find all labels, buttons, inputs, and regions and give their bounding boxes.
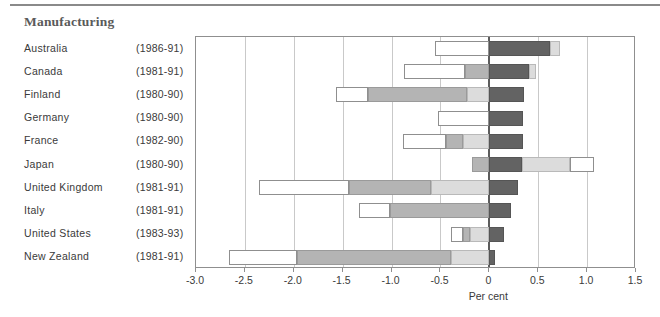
- category-name: Canada: [24, 65, 63, 77]
- category-name: Australia: [24, 42, 68, 54]
- bar-row[interactable]: [196, 153, 634, 176]
- bar-row[interactable]: [196, 176, 634, 199]
- category-period: (1981-91): [136, 181, 183, 193]
- category-period: (1983-93): [136, 227, 183, 239]
- x-axis: -3.0-2.5-2.0-1.5-1.0-0.500.51.01.5Per ce…: [195, 268, 635, 298]
- category-label-row: Australia(1986-91): [0, 36, 195, 59]
- x-axis-tick: [342, 268, 343, 272]
- category-name: Japan: [24, 158, 54, 170]
- x-axis-tick-label: -0.5: [430, 274, 448, 286]
- bar-segment[interactable]: [529, 64, 536, 79]
- bar-segment[interactable]: [349, 180, 431, 195]
- category-period: (1981-91): [136, 204, 183, 216]
- bar-segment[interactable]: [435, 41, 490, 56]
- bar-segment[interactable]: [522, 157, 571, 172]
- bar-row[interactable]: [196, 60, 634, 83]
- bar-segment[interactable]: [489, 180, 517, 195]
- chart-plot-area: [195, 36, 635, 268]
- category-label-column: Australia(1986-91)Canada(1981-91)Finland…: [0, 36, 195, 268]
- bar-segment[interactable]: [463, 134, 489, 149]
- bar-segment[interactable]: [431, 180, 490, 195]
- category-label-row: Japan(1980-90): [0, 152, 195, 175]
- bar-row[interactable]: [196, 37, 634, 60]
- category-name: United Kingdom: [24, 181, 103, 193]
- bar-segment[interactable]: [489, 64, 529, 79]
- x-axis-tick: [195, 268, 196, 272]
- category-name: New Zealand: [24, 250, 89, 262]
- header-rule: [10, 4, 660, 6]
- x-axis-tick: [537, 268, 538, 272]
- x-axis-title: Per cent: [469, 290, 508, 302]
- bar-segment[interactable]: [550, 41, 560, 56]
- x-axis-tick-label: -3.0: [186, 274, 204, 286]
- bar-segment[interactable]: [451, 250, 489, 265]
- bar-segment[interactable]: [472, 157, 490, 172]
- bar-segment[interactable]: [570, 157, 593, 172]
- bar-segment[interactable]: [451, 227, 463, 242]
- category-name: France: [24, 134, 58, 146]
- bar-row[interactable]: [196, 246, 634, 269]
- x-axis-tick-label: -2.5: [235, 274, 253, 286]
- category-name: Germany: [24, 111, 69, 123]
- x-axis-tick: [488, 268, 489, 272]
- bar-segment[interactable]: [359, 203, 389, 218]
- bar-segment[interactable]: [297, 250, 451, 265]
- category-label-row: New Zealand(1981-91): [0, 245, 195, 268]
- x-axis-tick-label: 1.0: [579, 274, 594, 286]
- category-period: (1986-91): [136, 42, 183, 54]
- bar-row[interactable]: [196, 223, 634, 246]
- category-label-row: Italy(1981-91): [0, 198, 195, 221]
- x-axis-tick: [635, 268, 636, 272]
- category-label-row: United States(1983-93): [0, 222, 195, 245]
- x-axis-tick-label: 1.5: [628, 274, 643, 286]
- category-label-row: Canada(1981-91): [0, 59, 195, 82]
- x-axis-tick-label: 0.5: [530, 274, 545, 286]
- x-axis-tick: [439, 268, 440, 272]
- bar-segment[interactable]: [465, 64, 489, 79]
- category-period: (1981-91): [136, 250, 183, 262]
- bar-segment[interactable]: [463, 227, 470, 242]
- category-period: (1980-90): [136, 111, 183, 123]
- bar-segment[interactable]: [489, 250, 495, 265]
- bar-segment[interactable]: [489, 111, 522, 126]
- category-period: (1980-90): [136, 158, 183, 170]
- x-axis-tick: [293, 268, 294, 272]
- x-axis-tick: [586, 268, 587, 272]
- bar-segment[interactable]: [368, 87, 467, 102]
- bar-segment[interactable]: [390, 203, 490, 218]
- x-axis-tick-label: -2.0: [284, 274, 302, 286]
- bar-segment[interactable]: [489, 87, 523, 102]
- bar-segment[interactable]: [489, 134, 522, 149]
- category-period: (1980-90): [136, 88, 183, 100]
- x-axis-tick-label: -1.0: [382, 274, 400, 286]
- bar-segment[interactable]: [489, 227, 504, 242]
- bar-row[interactable]: [196, 199, 634, 222]
- bar-segment[interactable]: [489, 203, 511, 218]
- x-axis-tick-label: 0: [485, 274, 491, 286]
- bar-segment[interactable]: [446, 134, 463, 149]
- bar-segment[interactable]: [438, 111, 489, 126]
- category-name: Finland: [24, 88, 61, 100]
- bar-row[interactable]: [196, 130, 634, 153]
- category-label-row: France(1982-90): [0, 129, 195, 152]
- bar-segment[interactable]: [470, 227, 490, 242]
- category-name: United States: [24, 227, 91, 239]
- bar-row[interactable]: [196, 83, 634, 106]
- bar-segment[interactable]: [259, 180, 349, 195]
- bar-row[interactable]: [196, 107, 634, 130]
- bar-segment[interactable]: [489, 157, 521, 172]
- page-title: Manufacturing: [24, 14, 114, 30]
- bar-segment[interactable]: [489, 41, 550, 56]
- bar-segment[interactable]: [336, 87, 368, 102]
- bar-segment[interactable]: [403, 134, 446, 149]
- x-axis-tick: [244, 268, 245, 272]
- category-name: Italy: [24, 204, 45, 216]
- bar-segment[interactable]: [467, 87, 489, 102]
- bar-segment[interactable]: [229, 250, 296, 265]
- category-label-row: Finland(1980-90): [0, 82, 195, 105]
- category-label-row: United Kingdom(1981-91): [0, 175, 195, 198]
- bar-segment[interactable]: [404, 64, 465, 79]
- x-axis-tick-label: -1.5: [333, 274, 351, 286]
- category-period: (1981-91): [136, 65, 183, 77]
- x-axis-tick: [391, 268, 392, 272]
